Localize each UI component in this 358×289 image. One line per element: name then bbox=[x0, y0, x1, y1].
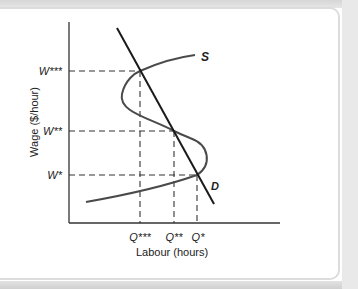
w3-label: W*** bbox=[39, 65, 63, 77]
labour-market-diagram: S D W*** W** W* Q*** Q** Q* Labour (hour… bbox=[0, 0, 358, 289]
w1-label: W* bbox=[47, 169, 62, 181]
q3-label: Q*** bbox=[129, 231, 151, 243]
w2-label: W** bbox=[43, 125, 63, 137]
y-axis-title: Wage ($/hour) bbox=[28, 87, 40, 157]
dashed-guides bbox=[69, 71, 197, 223]
supply-label: S bbox=[201, 50, 209, 64]
demand-line bbox=[117, 28, 214, 204]
q2-label: Q** bbox=[165, 231, 183, 243]
supply-curve bbox=[86, 55, 207, 202]
q1-label: Q* bbox=[192, 231, 206, 243]
x-axis-title: Labour (hours) bbox=[136, 246, 208, 258]
demand-label: D bbox=[211, 180, 219, 192]
